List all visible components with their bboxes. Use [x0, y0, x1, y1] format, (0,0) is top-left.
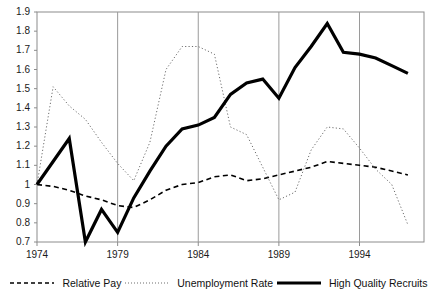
legend-item-unemployment-rate[interactable]: Unemployment Rate: [124, 277, 273, 289]
chart-legend: Relative Pay Unemployment Rate High Qual…: [0, 272, 437, 294]
series-unemployment-rate: [37, 47, 408, 225]
plot-area: [0, 0, 437, 298]
legend-label-relative-pay: Relative Pay: [62, 277, 121, 289]
series-high-quality-recruits: [37, 24, 408, 243]
dashed-line-swatch: [9, 278, 55, 288]
line-chart: 0.70.80.911.11.21.31.41.51.61.71.81.9 19…: [0, 0, 437, 298]
solid-line-swatch: [276, 278, 322, 288]
legend-label-high-quality-recruits: High Quality Recruits: [329, 277, 428, 289]
series-relative-pay: [37, 162, 408, 208]
legend-label-unemployment-rate: Unemployment Rate: [177, 277, 273, 289]
legend-item-high-quality-recruits[interactable]: High Quality Recruits: [276, 277, 428, 289]
legend-item-relative-pay[interactable]: Relative Pay: [9, 277, 121, 289]
dotted-line-swatch: [124, 278, 170, 288]
